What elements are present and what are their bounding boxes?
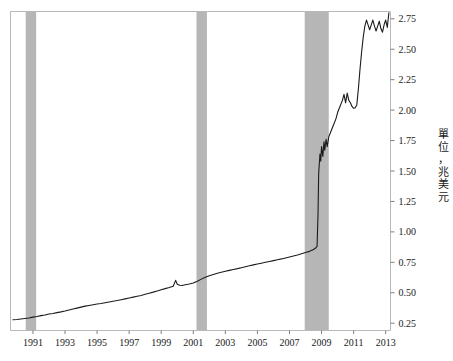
x-tick-label: 1997 — [119, 337, 139, 348]
y-tick-label: 2.00 — [399, 105, 417, 116]
x-tick-label: 1991 — [23, 337, 43, 348]
recession-band — [26, 12, 36, 331]
x-tick-label: 2009 — [312, 337, 332, 348]
y-tick-label: 1.00 — [399, 226, 417, 237]
y-tick-label: 1.25 — [399, 196, 417, 207]
y-axis-label-char: 單 — [435, 128, 451, 141]
y-axis-label-char: 美 — [435, 178, 451, 191]
x-tick-label: 2013 — [376, 337, 396, 348]
y-tick-label: 2.50 — [399, 44, 417, 55]
x-tick-label: 2003 — [215, 337, 235, 348]
y-axis-ticks — [391, 19, 395, 323]
x-tick-label: 1999 — [151, 337, 171, 348]
x-tick-label: 1993 — [55, 337, 75, 348]
chart-container: 1991199319951997199920012003200520072009… — [0, 0, 453, 361]
y-tick-label: 0.75 — [399, 257, 417, 268]
x-axis-ticks — [33, 331, 386, 335]
y-tick-label: 2.25 — [399, 74, 417, 85]
y-tick-label: 1.50 — [399, 166, 417, 177]
y-axis-label-char: 兆 — [435, 166, 451, 179]
y-axis-label: 單位，兆美元 — [435, 128, 451, 203]
x-tick-label: 2005 — [247, 337, 267, 348]
y-axis-label-char: ， — [435, 153, 451, 166]
y-tick-label: 2.75 — [399, 13, 417, 24]
x-tick-label: 2001 — [183, 337, 203, 348]
x-tick-label: 1995 — [87, 337, 107, 348]
y-axis-label-char: 元 — [435, 191, 451, 204]
recession-bands-group — [26, 12, 329, 331]
x-axis-tick-labels: 1991199319951997199920012003200520072009… — [23, 337, 396, 348]
y-tick-label: 1.75 — [399, 135, 417, 146]
y-axis-tick-labels: 0.250.500.751.001.251.501.752.002.252.50… — [399, 13, 417, 328]
federal-reserve-assets-line-chart: 1991199319951997199920012003200520072009… — [0, 0, 453, 361]
x-tick-label: 2011 — [344, 337, 364, 348]
recession-band — [196, 12, 206, 331]
y-tick-label: 0.25 — [399, 318, 417, 329]
y-axis-label-char: 位 — [435, 141, 451, 154]
y-tick-label: 0.50 — [399, 287, 417, 298]
recession-band — [305, 12, 329, 331]
x-tick-label: 2007 — [279, 337, 299, 348]
